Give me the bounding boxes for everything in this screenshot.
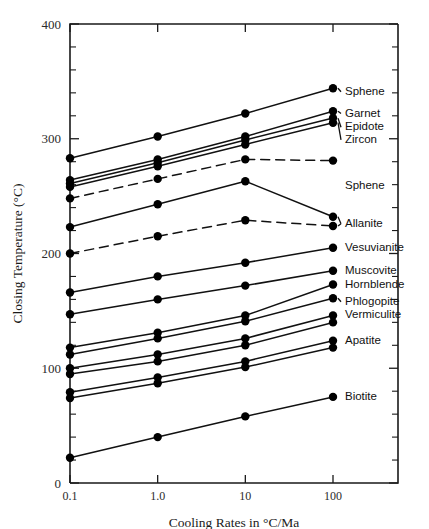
data-point-sphene-2-1: [154, 175, 162, 183]
data-point-allanite-lo-2: [241, 216, 249, 224]
data-point-allanite-hi-3: [329, 213, 337, 221]
series-label-sphene-2: Sphene: [345, 179, 385, 191]
data-point-allanite-lo-3: [329, 222, 337, 230]
series-leader-garnet: [338, 111, 341, 113]
data-point-allanite-lo-1: [154, 232, 162, 240]
series-label-vermiculite: Vermiculite: [345, 308, 401, 320]
series-leader-phlogopite: [338, 298, 341, 301]
series-label-muscovite: Muscovite: [345, 264, 397, 276]
data-point-vermiculite-2-3: [329, 318, 337, 326]
data-point-vesuvianite-0: [66, 288, 74, 296]
data-point-zircon-3: [329, 119, 337, 127]
y-axis-tick-label: 100: [42, 361, 62, 376]
data-point-biotite-3: [329, 393, 337, 401]
series-line-hornblende: [70, 285, 333, 348]
series-label-vesuvianite: Vesuvianite: [345, 241, 404, 253]
data-point-phlogopite-3: [329, 294, 337, 302]
data-point-allanite-hi-1: [154, 200, 162, 208]
data-point-phlogopite-2: [241, 317, 249, 325]
series-line-biotite: [70, 397, 333, 458]
series-leader-sphene: [338, 88, 341, 91]
y-axis-tick-label: 400: [42, 17, 62, 32]
data-point-biotite-2: [241, 412, 249, 420]
data-point-muscovite-1: [154, 295, 162, 303]
series-line-vesuvianite: [70, 248, 333, 293]
data-point-allanite-hi-2: [241, 177, 249, 185]
series-line-apatite: [70, 341, 333, 393]
data-point-sphene-0: [66, 154, 74, 162]
data-point-sphene-2: [241, 109, 249, 117]
x-axis-title: Cooling Rates in °C/Ma: [169, 515, 299, 529]
data-point-apatite-2-2: [241, 363, 249, 371]
series-label-phlogopite: Phlogopite: [345, 295, 399, 307]
data-point-apatite-2-1: [154, 379, 162, 387]
y-axis-tick-label: 0: [55, 476, 62, 491]
data-point-phlogopite-0: [66, 350, 74, 358]
series-line-epidote: [70, 118, 333, 183]
y-axis-tick-label: 200: [42, 246, 62, 261]
data-point-sphene-2-0: [66, 194, 74, 202]
series-line-apatite-2: [70, 348, 333, 399]
y-axis-title: Closing Temperature (°C): [10, 184, 25, 324]
data-point-sphene-1: [154, 132, 162, 140]
data-point-phlogopite-1: [154, 334, 162, 342]
data-point-sphene-2-3: [329, 156, 337, 164]
data-point-biotite-1: [154, 433, 162, 441]
series-label-garnet: Garnet: [345, 107, 381, 119]
data-point-allanite-hi-0: [66, 223, 74, 231]
data-point-hornblende-3: [329, 280, 337, 288]
data-point-muscovite-3: [329, 267, 337, 275]
data-point-vermiculite-2-1: [154, 357, 162, 365]
data-point-vermiculite-2-2: [241, 341, 249, 349]
data-point-zircon-2: [241, 140, 249, 148]
data-point-sphene-2-2: [241, 155, 249, 163]
data-point-vermiculite-2-0: [66, 370, 74, 378]
series-line-allanite-hi: [70, 181, 333, 227]
data-point-allanite-lo-0: [66, 249, 74, 257]
x-axis-tick-label: 100: [324, 489, 342, 503]
series-label-biotite: Biotite: [345, 390, 377, 402]
data-point-apatite-2-0: [66, 394, 74, 402]
data-point-zircon-0: [66, 183, 74, 191]
data-point-muscovite-2: [241, 281, 249, 289]
y-axis-tick-label: 300: [42, 131, 62, 146]
closing-temperature-chart: 01002003004000.11.010100Cooling Rates in…: [0, 0, 429, 529]
series-label-apatite: Apatite: [345, 334, 381, 346]
series-label-zircon: Zircon: [345, 133, 377, 145]
chart-canvas: 01002003004000.11.010100Cooling Rates in…: [0, 0, 429, 529]
data-point-sphene-3: [329, 84, 337, 92]
series-label-hornblende: Hornblende: [345, 278, 404, 290]
series-line-allanite-lo: [70, 220, 333, 253]
data-point-muscovite-0: [66, 310, 74, 318]
series-leader-allanite-hi: [338, 217, 341, 224]
series-line-muscovite: [70, 271, 333, 315]
series-label-sphene: Sphene: [345, 85, 385, 97]
data-point-biotite-0: [66, 454, 74, 462]
series-leader-allanite-lower: [338, 224, 341, 226]
x-axis-tick-label: 0.1: [63, 489, 78, 503]
data-point-apatite-2-3: [329, 343, 337, 351]
data-point-vesuvianite-3: [329, 244, 337, 252]
data-point-vesuvianite-1: [154, 272, 162, 280]
data-point-vesuvianite-2: [241, 259, 249, 267]
x-axis-tick-label: 10: [239, 489, 251, 503]
series-label-allanite-hi: Allanite: [345, 217, 383, 229]
series-label-epidote: Epidote: [345, 120, 384, 132]
data-point-zircon-1: [154, 162, 162, 170]
series-line-zircon: [70, 123, 333, 187]
x-axis-tick-label: 1.0: [150, 489, 165, 503]
